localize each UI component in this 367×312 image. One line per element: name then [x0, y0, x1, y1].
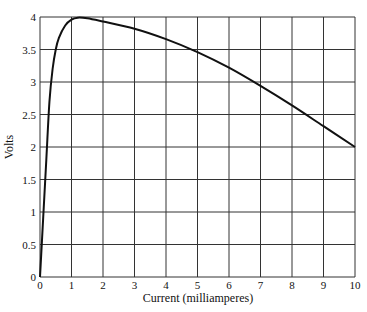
y-axis-label: Volts — [2, 134, 16, 159]
x-tick-label: 1 — [69, 279, 75, 291]
x-tick-label: 4 — [163, 279, 169, 291]
y-tick-label: 4 — [31, 11, 37, 23]
y-tick-label: 3.5 — [22, 44, 36, 56]
y-tick-label: 3 — [31, 76, 37, 88]
x-tick-label: 7 — [258, 279, 264, 291]
x-tick-label: 6 — [226, 279, 232, 291]
x-tick-label: 9 — [321, 279, 327, 291]
y-tick-label: 0 — [31, 271, 37, 283]
x-tick-label: 5 — [195, 279, 201, 291]
x-tick-label: 10 — [350, 279, 362, 291]
x-tick-label: 0 — [37, 279, 43, 291]
y-axis-ticks: 00.511.522.533.54 — [22, 11, 36, 283]
x-tick-label: 2 — [100, 279, 106, 291]
x-tick-label: 8 — [289, 279, 295, 291]
grid-lines — [40, 17, 355, 277]
chart: 00.511.522.533.54 012345678910 Current (… — [0, 0, 367, 312]
y-tick-label: 2 — [31, 141, 37, 153]
y-tick-label: 2.5 — [22, 109, 36, 121]
x-axis-label: Current (milliamperes) — [143, 291, 253, 305]
x-tick-label: 3 — [132, 279, 138, 291]
y-tick-label: 1 — [31, 206, 37, 218]
y-tick-label: 1.5 — [22, 174, 36, 186]
y-tick-label: 0.5 — [22, 239, 36, 251]
x-axis-ticks: 012345678910 — [37, 279, 361, 291]
